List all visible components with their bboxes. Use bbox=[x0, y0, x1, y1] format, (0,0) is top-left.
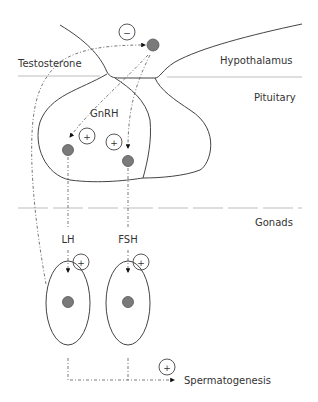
lh-positive-sign: + bbox=[73, 254, 89, 270]
posterior-pituitary bbox=[143, 78, 211, 178]
lh-label: LH bbox=[61, 234, 74, 245]
spermatogenesis-positive-sign: + bbox=[159, 359, 175, 375]
testosterone-label: Testosterone bbox=[17, 58, 82, 69]
pituitary-cell-fsh bbox=[123, 156, 134, 167]
svg-text:−: − bbox=[123, 28, 131, 38]
hypothalamus-label: Hypothalamus bbox=[220, 55, 293, 66]
anterior-pituitary bbox=[38, 74, 150, 182]
gnrh-label: GnRH bbox=[90, 108, 119, 119]
fsh-positive-sign: + bbox=[133, 254, 149, 270]
svg-text:+: + bbox=[163, 363, 171, 373]
spermatogenesis-flow bbox=[68, 358, 174, 380]
hypothalamus-outline bbox=[60, 24, 302, 78]
gonad-cell-leydig bbox=[46, 261, 90, 345]
svg-text:+: + bbox=[110, 138, 118, 148]
pituitary-label: Pituitary bbox=[254, 92, 296, 103]
hypothalamic-neuron bbox=[147, 39, 159, 51]
gnrh-arrow-to-lh-cell bbox=[70, 55, 148, 137]
gnrh-positive-sign-1: + bbox=[79, 128, 95, 144]
gonad-cell-sertoli bbox=[106, 261, 150, 345]
pituitary-cell-lh bbox=[63, 145, 74, 156]
fsh-label: FSH bbox=[118, 234, 137, 245]
spermatogenesis-label: Spermatogenesis bbox=[184, 375, 271, 386]
gonads-label: Gonads bbox=[255, 217, 293, 228]
gnrh-positive-sign-2: + bbox=[106, 134, 122, 150]
negative-feedback-sign: − bbox=[119, 24, 135, 40]
hpg-axis-diagram: − GnRH + + LH FSH + + + Test bbox=[0, 0, 318, 402]
svg-text:+: + bbox=[83, 132, 91, 142]
gnrh-arrow-to-fsh-cell bbox=[128, 55, 150, 148]
